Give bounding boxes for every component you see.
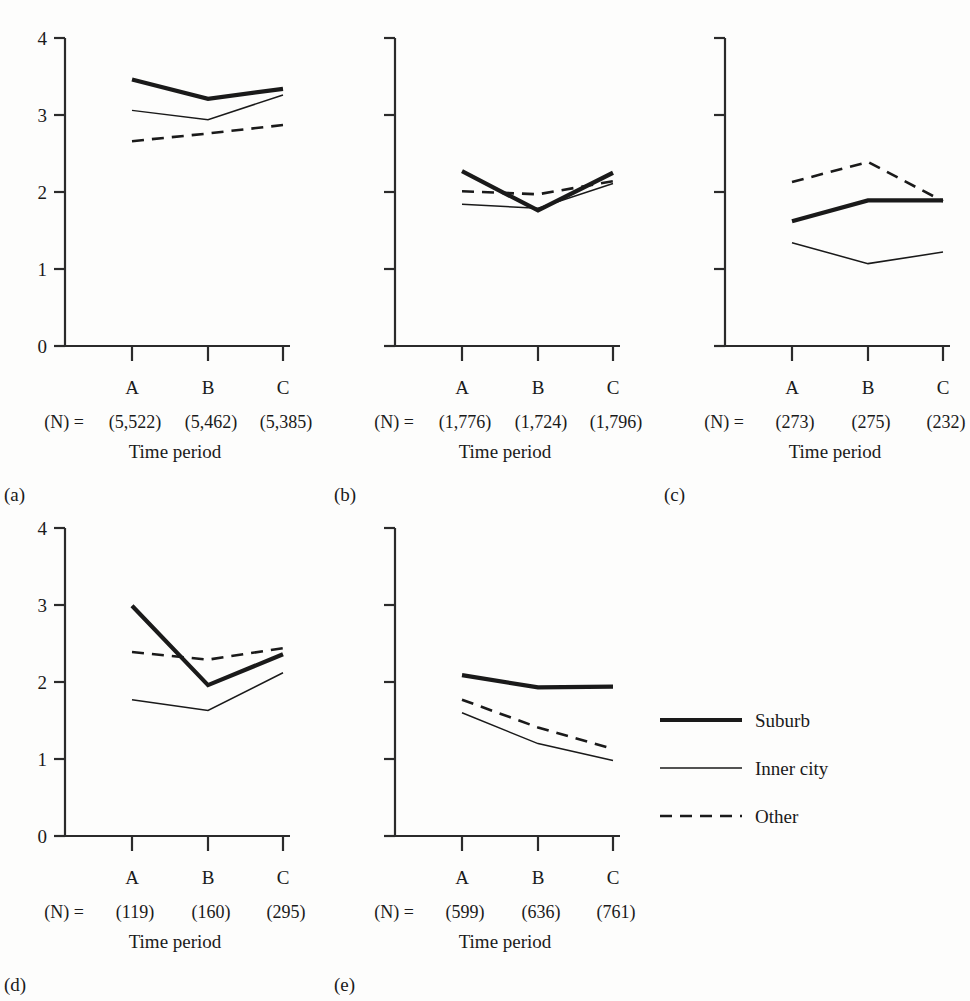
- y-axis-tick-label: 2: [38, 182, 48, 203]
- x-axis-tick-label: B: [532, 867, 545, 888]
- plot-axes: [725, 38, 950, 346]
- series-line-inner-city: [462, 713, 613, 761]
- n-value: (119): [116, 902, 154, 923]
- y-axis-tick-label: 0: [38, 336, 48, 357]
- x-axis-tick-label: A: [455, 867, 469, 888]
- x-axis-tick-label: C: [277, 377, 290, 398]
- panel-letter: (c): [664, 484, 685, 506]
- series-line-inner-city: [132, 673, 283, 711]
- x-axis-title: Time period: [129, 441, 222, 462]
- x-axis-tick-label: A: [125, 867, 139, 888]
- x-axis-tick-label: B: [862, 377, 875, 398]
- n-row-label: (N) =: [44, 902, 84, 923]
- panel-letter: (e): [334, 974, 355, 996]
- x-axis-tick-label: C: [277, 867, 290, 888]
- chart-panel-e: ABC(N) =(599)(636)(761)Time period(e): [330, 510, 660, 990]
- legend-item: Other: [660, 806, 799, 827]
- x-axis-tick-label: B: [532, 377, 545, 398]
- series-line-suburb: [132, 80, 283, 99]
- n-value: (761): [597, 902, 636, 923]
- n-value: (232): [927, 412, 966, 433]
- y-axis-tick-label: 3: [38, 105, 48, 126]
- panel-letter: (b): [334, 484, 356, 506]
- series-line-suburb: [792, 200, 943, 221]
- series-line-suburb: [132, 606, 283, 685]
- plot-axes: [65, 38, 290, 346]
- n-value: (5,462): [185, 412, 238, 433]
- n-value: (5,522): [109, 412, 162, 433]
- chart-legend: SuburbInner cityOther: [660, 690, 959, 830]
- n-value: (5,385): [260, 412, 313, 433]
- x-axis-tick-label: C: [607, 867, 620, 888]
- x-axis-title: Time period: [789, 441, 882, 462]
- series-line-suburb: [462, 675, 613, 687]
- y-axis-tick-label: 0: [38, 826, 48, 847]
- series-line-inner-city: [792, 243, 943, 264]
- series-line-other: [132, 648, 283, 660]
- y-axis-tick-label: 1: [38, 259, 48, 280]
- x-axis-tick-label: C: [937, 377, 950, 398]
- series-line-other: [792, 162, 943, 201]
- n-value: (160): [192, 902, 231, 923]
- n-value: (1,776): [439, 412, 492, 433]
- legend-label: Suburb: [755, 710, 810, 731]
- x-axis-tick-label: A: [455, 377, 469, 398]
- x-axis-title: Time period: [129, 931, 222, 952]
- x-axis-tick-label: A: [785, 377, 799, 398]
- x-axis-title: Time period: [459, 931, 552, 952]
- n-value: (295): [267, 902, 306, 923]
- series-line-inner-city: [462, 184, 613, 209]
- panel-letter: (d): [4, 974, 26, 996]
- x-axis-tick-label: B: [202, 377, 215, 398]
- legend-item: Suburb: [660, 710, 810, 731]
- x-axis-tick-label: B: [202, 867, 215, 888]
- n-row-label: (N) =: [374, 902, 414, 923]
- chart-panel-c: ABC(N) =(273)(275)(232)Time period(c): [660, 20, 959, 500]
- n-row-label: (N) =: [704, 412, 744, 433]
- y-axis-tick-label: 3: [38, 595, 48, 616]
- x-axis-tick-label: A: [125, 377, 139, 398]
- panel-letter: (a): [4, 484, 25, 506]
- chart-panel-d: 01234ABC(N) =(119)(160)(295)Time period(…: [0, 510, 330, 990]
- legend-label: Other: [755, 806, 799, 827]
- y-axis-tick-label: 2: [38, 672, 48, 693]
- series-line-other: [132, 125, 283, 141]
- n-value: (1,724): [515, 412, 568, 433]
- n-value: (275): [852, 412, 891, 433]
- plot-axes: [65, 528, 290, 836]
- n-row-label: (N) =: [44, 412, 84, 433]
- legend-label: Inner city: [755, 758, 829, 779]
- n-row-label: (N) =: [374, 412, 414, 433]
- chart-panel-a: 01234ABC(N) =(5,522)(5,462)(5,385)Time p…: [0, 20, 330, 500]
- n-value: (599): [446, 902, 485, 923]
- n-value: (1,796): [590, 412, 643, 433]
- legend-item: Inner city: [660, 758, 829, 779]
- x-axis-title: Time period: [459, 441, 552, 462]
- x-axis-tick-label: C: [607, 377, 620, 398]
- y-axis-tick-label: 1: [38, 749, 48, 770]
- chart-panel-b: ABC(N) =(1,776)(1,724)(1,796)Time period…: [330, 20, 660, 500]
- y-axis-tick-label: 4: [38, 28, 48, 49]
- y-axis-tick-label: 4: [38, 518, 48, 539]
- n-value: (636): [522, 902, 561, 923]
- series-line-other: [462, 700, 613, 749]
- n-value: (273): [776, 412, 815, 433]
